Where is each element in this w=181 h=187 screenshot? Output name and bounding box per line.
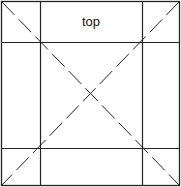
top-label: top bbox=[40, 14, 142, 29]
diagram-canvas: top bbox=[0, 0, 181, 187]
